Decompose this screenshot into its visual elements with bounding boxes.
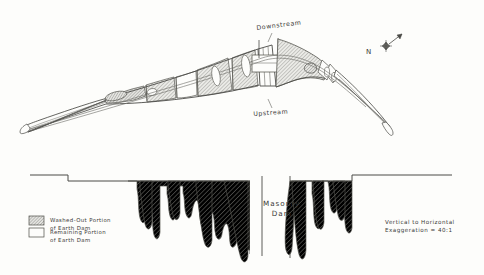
vertical-exaggeration-note: Vertical to Horizontal Exaggeration = 40… — [385, 217, 455, 235]
legend-item-1-line1: Remaining Portion — [50, 229, 106, 237]
legend-swatch-washed-out — [29, 216, 44, 225]
legend-item-1-line2: of Earth Dam — [50, 237, 106, 245]
masonry-dam-label: Masonry Dam — [263, 198, 301, 219]
exaggeration-line-1: Vertical to Horizontal — [385, 219, 455, 226]
exaggeration-line-2: Exaggeration = 40:1 — [385, 227, 455, 234]
masonry-dam-label-line2: Dam — [263, 209, 301, 218]
legend-item-0-line1: Washed-Out Portion — [50, 217, 111, 225]
legend-item-remaining-text: Remaining Portion of Earth Dam — [50, 229, 106, 245]
north-letter-label: N — [366, 48, 372, 57]
legend-swatch-remaining — [29, 228, 44, 237]
masonry-dam-label-line1: Masonry — [263, 199, 301, 208]
